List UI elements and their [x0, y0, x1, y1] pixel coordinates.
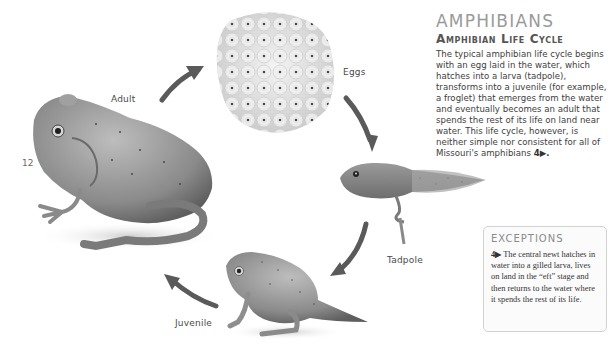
subsection-title: Amphibian Life Cycle — [436, 32, 563, 46]
stage-label-eggs: Eggs — [343, 67, 366, 77]
arrow-tadpole-to-juvenile-icon — [340, 224, 366, 270]
eggs-illustration — [217, 12, 334, 132]
arrow-eggs-to-tadpole-icon — [346, 98, 370, 140]
stage-label-tadpole: Tadpole — [387, 255, 423, 265]
section-title: AMPHIBIANS — [436, 11, 554, 31]
exceptions-text: The central newt hatches in water into a… — [491, 250, 595, 304]
page-number: 12 — [22, 158, 33, 168]
intro-text: The typical amphibian life cycle begins … — [436, 49, 607, 158]
exceptions-paragraph: 4▶ The central newt hatches in water int… — [491, 249, 599, 305]
stage-label-juvenile: Juvenile — [175, 318, 212, 328]
adult-frog-illustration — [33, 94, 225, 250]
intro-paragraph: The typical amphibian life cycle begins … — [436, 49, 608, 159]
exceptions-title: EXCEPTIONS — [491, 233, 599, 244]
stage-label-adult: Adult — [111, 94, 135, 104]
exceptions-box: EXCEPTIONS 4▶ The central newt hatches i… — [483, 226, 607, 332]
reference-marker-link[interactable]: 4▶. — [534, 148, 550, 158]
arrow-juvenile-to-adult-icon — [172, 280, 216, 306]
exceptions-marker: 4▶ — [491, 250, 501, 259]
